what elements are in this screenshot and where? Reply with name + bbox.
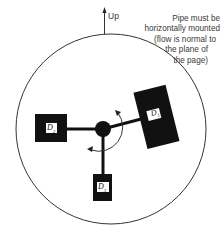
detector-label-d3: D3 (98, 182, 106, 193)
note-line: the page) (128, 56, 220, 66)
note-line: horizontally mounted (128, 24, 220, 34)
note-line: (flow is normal to (128, 35, 220, 45)
detector-label-d2: D2 (47, 123, 55, 134)
up-label: Up (108, 11, 119, 21)
up-arrow-icon (103, 7, 107, 34)
hub (95, 121, 111, 137)
mounting-note: Pipe must be horizontally mounted (flow … (128, 14, 220, 66)
note-line: Pipe must be (128, 14, 220, 24)
note-line: the plane of (128, 45, 220, 55)
